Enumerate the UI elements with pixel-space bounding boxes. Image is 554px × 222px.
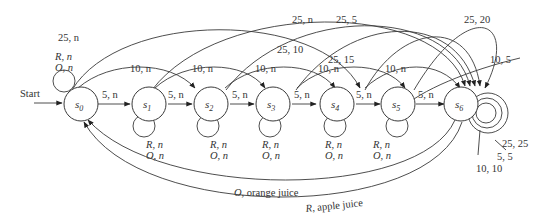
label-s4-s6-10: 10, n	[385, 63, 407, 74]
loop-s5-label-2: O, n	[373, 150, 391, 161]
loop-s0-label-2: O, n	[55, 62, 73, 73]
state-s1: s1	[132, 87, 166, 121]
start-arrow: Start	[20, 88, 62, 103]
loop-s6-label-5: 5, 5	[497, 151, 513, 162]
label-return-apple: R, apple juice	[304, 197, 364, 214]
loop-s3-label-1: R, n	[261, 139, 279, 150]
state-s0: s0	[64, 87, 98, 121]
label-s0-s5-25: 25, n	[58, 32, 80, 43]
edges-return: O, orange juice R, apple juice	[84, 120, 462, 214]
start-label: Start	[20, 88, 40, 99]
loop-s6-label-10: 10, 10	[476, 163, 502, 174]
state-s2: s2	[194, 87, 228, 121]
state-s3: s3	[256, 87, 290, 121]
label-s3-s6-25: 25, 10	[277, 44, 303, 55]
loop-s4-label-2: O, n	[325, 150, 343, 161]
label-s5-s6-5: 5, n	[418, 89, 435, 100]
state-s4: s4	[320, 87, 354, 121]
label-s2-s6-25: 25, 5	[336, 14, 357, 25]
loop-s4-label-1: R, n	[324, 139, 342, 150]
label-s3-s5-10: 10, n	[318, 63, 340, 74]
label-s0-s2-10: 10, n	[130, 63, 152, 74]
label-s1-s3-10: 10, n	[192, 63, 214, 74]
edges-25: 25, n 25, n 25, 5 25, 10 25, 15 25, 20	[58, 14, 497, 90]
loop-s1-label-2: O, n	[146, 150, 164, 161]
label-s5-s6-10: 10, 5	[490, 54, 511, 65]
loop-s5-label-1: R, n	[372, 139, 390, 150]
loop-s6-label-25: 25, 25	[502, 138, 528, 149]
state-s5: s5	[381, 87, 415, 121]
loop-s3-label-2: O, n	[262, 150, 280, 161]
loop-s2-label-1: R, n	[209, 139, 227, 150]
label-s0-s1-5: 5, n	[102, 89, 119, 100]
label-s2-s3-5: 5, n	[232, 89, 249, 100]
label-s5-s6-25: 25, 20	[464, 14, 490, 25]
label-s1-s6-25: 25, n	[292, 14, 314, 25]
loop-s1-label-1: R, n	[145, 139, 163, 150]
label-s4-s5-5: 5, n	[356, 89, 373, 100]
label-s2-s4-10: 10, n	[255, 63, 277, 74]
label-s3-s4-5: 5, n	[294, 89, 311, 100]
state-s6: s6	[444, 87, 478, 121]
fsm-diagram: Start 25, n 25, n 25, 5 25, 10 25, 15 25…	[0, 0, 554, 222]
loop-s2-label-2: O, n	[210, 150, 228, 161]
loop-s0-label-1: R, n	[54, 51, 72, 62]
label-s1-s2-5: 5, n	[168, 89, 185, 100]
label-return-orange: O, orange juice	[234, 187, 299, 198]
